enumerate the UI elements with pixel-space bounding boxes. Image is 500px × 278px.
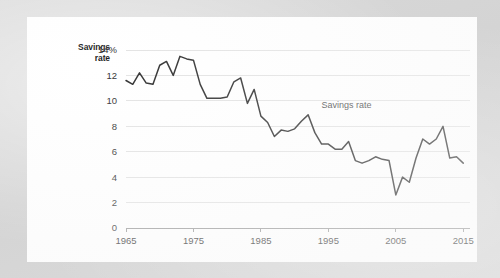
- y-tick-label: 4: [112, 172, 117, 183]
- plot-area: 02468101214%196519751985199520052015Savi…: [27, 17, 477, 262]
- x-tick-label: 1965: [115, 235, 136, 246]
- savings-rate-line-chart: 02468101214%196519751985199520052015Savi…: [27, 17, 477, 262]
- screenshot-root: Savings rate 02468101214%196519751985199…: [0, 0, 500, 278]
- x-tick-label: 1995: [318, 235, 339, 246]
- x-tick-label: 1985: [250, 235, 271, 246]
- x-tick-label: 1975: [183, 235, 204, 246]
- y-tick-label: 14%: [98, 44, 118, 55]
- series-line-savings-rate: [126, 56, 463, 195]
- y-tick-label: 2: [112, 197, 117, 208]
- x-tick-label: 2015: [453, 235, 474, 246]
- y-tick-label: 6: [112, 146, 117, 157]
- y-tick-label: 10: [106, 95, 117, 106]
- y-tick-label: 12: [106, 70, 117, 81]
- y-tick-label: 0: [112, 222, 117, 233]
- chart-card: Savings rate 02468101214%196519751985199…: [27, 17, 477, 262]
- x-tick-label: 2005: [385, 235, 406, 246]
- series-annotation-label: Savings rate: [322, 100, 372, 110]
- y-tick-label: 8: [112, 121, 117, 132]
